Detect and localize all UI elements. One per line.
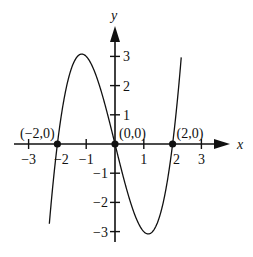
y-axis-label: y [109, 8, 118, 23]
x-tick-label: 3 [198, 152, 205, 167]
x-tick-label: 1 [140, 152, 147, 167]
x-axis-arrow-icon [214, 139, 230, 149]
x-tick-label: −1 [79, 152, 94, 167]
x-tick-label: 2 [173, 152, 180, 167]
intercept-dot [54, 140, 61, 147]
intercept-label: (0,0) [119, 126, 146, 142]
y-tick-label: 2 [123, 79, 130, 94]
axes: xy−3−2−1123−3−2−1123 [14, 8, 244, 242]
intercept-label: (−2,0) [20, 126, 55, 142]
y-tick-label: 1 [123, 108, 130, 123]
intercept-dot [111, 140, 118, 147]
y-tick-label: −1 [93, 166, 108, 181]
intercept-dot [169, 140, 176, 147]
x-tick-label: −3 [21, 152, 36, 167]
function-graph: xy−3−2−1123−3−2−1123 (−2,0)(0,0)(2,0) [0, 0, 253, 257]
y-tick-label: −3 [93, 225, 108, 240]
y-tick-label: −2 [93, 195, 108, 210]
plot-area: xy−3−2−1123−3−2−1123 (−2,0)(0,0)(2,0) [0, 0, 253, 257]
intercept-label: (2,0) [177, 126, 204, 142]
x-axis-label: x [236, 137, 244, 152]
y-tick-label: 3 [123, 49, 130, 64]
y-axis-arrow-icon [110, 26, 120, 42]
